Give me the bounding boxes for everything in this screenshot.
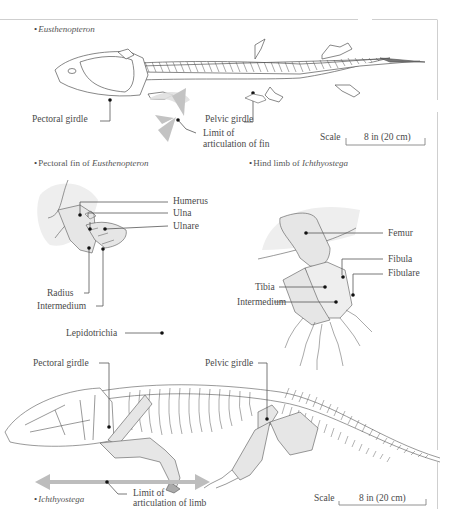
limb-articulation-arrow	[35, 474, 210, 490]
label-ulnare: Ulnare	[173, 221, 199, 231]
label-lepidotrichia: Lepidotrichia	[66, 328, 117, 338]
label-pelvic-girdle-top: Pelvic girdle	[205, 114, 253, 124]
label-ulna: Ulna	[173, 208, 191, 218]
label-intermedium-limb: Intermedium	[237, 297, 286, 307]
label-humerus: Humerus	[173, 196, 208, 206]
label-limit-limb-2: articulation of limb	[133, 498, 206, 508]
scale-value-top: 8 in (20 cm)	[364, 132, 411, 142]
hind-limb-drawing	[258, 207, 372, 370]
label-tibia: Tibia	[255, 282, 275, 292]
eusthenopteron-skeleton	[55, 39, 425, 102]
scale-label-bottom: Scale	[314, 493, 335, 503]
label-limit-limb-1: Limit of	[133, 488, 164, 498]
scale-label-top: Scale	[320, 132, 341, 142]
pectoral-fin-title: Pectoral fin of Eusthenopteron	[34, 158, 149, 168]
label-limit-fin-1: Limit of	[203, 128, 234, 138]
label-fibula: Fibula	[388, 254, 412, 264]
label-femur: Femur	[388, 228, 413, 238]
label-radius: Radius	[47, 288, 73, 298]
ichthyostega-title: Ichthyostega	[34, 494, 84, 504]
label-pectoral-girdle-bottom: Pectoral girdle	[33, 358, 89, 368]
label-pelvic-girdle-bottom: Pelvic girdle	[205, 358, 253, 368]
label-fibulare: Fibulare	[388, 268, 420, 278]
pectoral-fin-drawing	[37, 180, 126, 253]
diagram-artwork	[0, 0, 451, 509]
label-intermedium-fin: Intermedium	[37, 301, 86, 311]
label-pectoral-girdle-top: Pectoral girdle	[32, 114, 88, 124]
fin-articulation-arrows	[150, 88, 190, 142]
hind-limb-title: Hind limb of Ichthyostega	[249, 158, 348, 168]
ichthyostega-skeleton	[5, 385, 440, 493]
label-limit-fin-2: articulation of fin	[203, 139, 269, 149]
scale-value-bottom: 8 in (20 cm)	[359, 493, 406, 503]
eusthenopteron-title: Eusthenopteron	[34, 24, 95, 34]
